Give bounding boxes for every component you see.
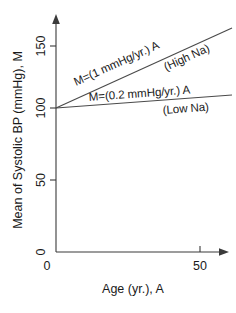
annotation-low-na-group: (Low Na)	[162, 100, 209, 116]
y-tick-label-100: 100	[34, 98, 48, 119]
y-axis-arrow-icon	[52, 14, 60, 24]
y-tick-label-0: 0	[34, 248, 48, 255]
x-axis-arrow-icon	[219, 248, 229, 256]
x-axis-title: Age (yr.), A	[102, 282, 164, 296]
y-tick-label-150: 150	[34, 36, 48, 57]
y-axis-title: Mean of Systolic BP (mmHg), M	[11, 51, 25, 229]
x-tick-label-50: 50	[193, 259, 207, 273]
chart-plot-area: 150 100 50 0 0 50 Mean of Systolic BP (m…	[0, 0, 236, 313]
x-tick-label-0: 0	[44, 259, 51, 273]
annotation-high-na-group: (High Na)	[161, 41, 211, 73]
chart-figure: 150 100 50 0 0 50 Mean of Systolic BP (m…	[0, 0, 236, 313]
y-tick-label-50: 50	[34, 173, 48, 187]
annotation-low-na-equation: M=(0.2 mmHg/yr.) A	[88, 83, 191, 103]
